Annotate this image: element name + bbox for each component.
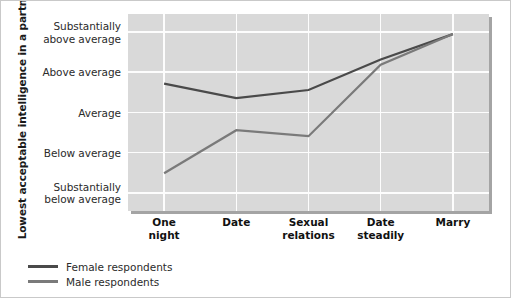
y-axis-tick-labels: Substantially below averageBelow average… (35, 14, 125, 211)
y-axis-title-container: Lowest acceptable intelligence in a part… (5, 13, 39, 213)
legend-item: Male respondents (28, 274, 172, 289)
chart-figure: Lowest acceptable intelligence in a part… (0, 0, 511, 298)
legend-label: Female respondents (66, 261, 172, 273)
x-axis-tick-labels: One nightDateSexual relationsDate steadi… (128, 216, 489, 250)
legend-line-swatch (28, 265, 58, 267)
series-line (164, 34, 453, 98)
y-tick-label: Below average (44, 146, 121, 159)
legend-label: Male respondents (66, 276, 159, 288)
y-tick-label: Substantially above average (43, 20, 121, 45)
data-lines-svg (128, 14, 489, 211)
series-line (164, 34, 453, 173)
x-tick-label: Marry (408, 216, 498, 229)
legend: Female respondentsMale respondents (28, 259, 172, 289)
y-tick-label: Substantially below average (44, 180, 121, 205)
y-tick-label: Average (78, 106, 121, 119)
legend-item: Female respondents (28, 259, 172, 274)
legend-line-swatch (28, 280, 58, 282)
y-axis-title: Lowest acceptable intelligence in a part… (16, 0, 29, 239)
y-tick-label: Above average (42, 66, 121, 79)
plot-area (128, 14, 489, 211)
